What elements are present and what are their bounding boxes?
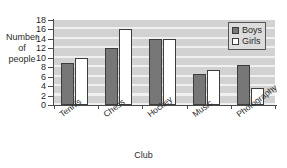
x-axis-label-music: Music [191, 99, 214, 120]
bar-chart: Number of people 181614121086420 TennisC… [0, 0, 287, 168]
x-tick-music [187, 105, 188, 109]
x-tick-chess [98, 105, 99, 109]
x-tick-end [275, 105, 276, 109]
x-tick-hockey [142, 105, 143, 109]
x-axis-label-hockey: Hockey [146, 95, 174, 119]
legend-label-boys: Boys [242, 26, 262, 35]
legend-label-girls: Girls [242, 37, 261, 46]
x-axis-label-tennis: Tennis [58, 97, 83, 119]
x-tick-photography [231, 105, 232, 109]
x-axis-label-chess: Chess [102, 98, 127, 120]
x-tick-tennis [54, 105, 55, 109]
legend-item-girls: Girls [232, 36, 262, 47]
legend-swatch-boys-icon [232, 27, 239, 34]
legend-item-boys: Boys [232, 25, 262, 36]
x-axis-label-photography: Photography [235, 83, 279, 119]
legend: Boys Girls [228, 22, 266, 50]
x-axis-title: Club [0, 150, 287, 160]
legend-swatch-girls-icon [232, 38, 239, 45]
